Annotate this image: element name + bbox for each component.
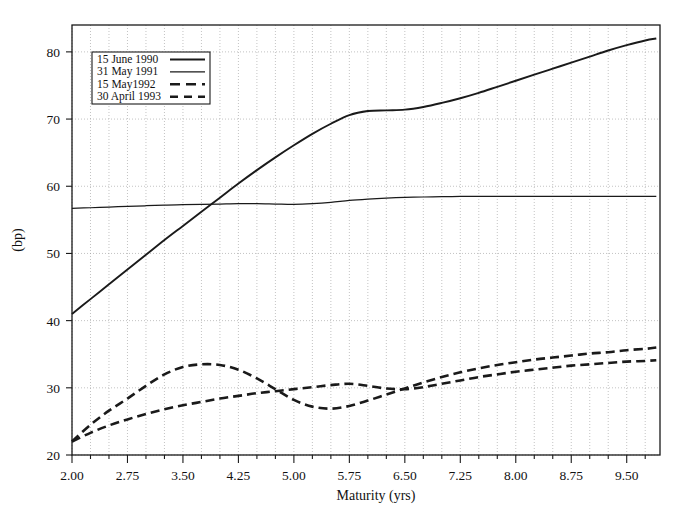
legend-item-label: 15 June 1990 — [97, 53, 159, 65]
y-axis-title: (bp) — [10, 228, 26, 252]
legend-item-label: 31 May 1991 — [97, 65, 159, 78]
x-tick-label: 2.75 — [116, 468, 140, 483]
y-tick-label: 70 — [47, 112, 61, 127]
x-tick-label: 3.50 — [171, 468, 195, 483]
x-tick-label: 5.75 — [338, 468, 362, 483]
series-line-3 — [72, 348, 656, 442]
y-tick-label: 80 — [47, 45, 61, 60]
chart-figure: 2.002.753.504.255.005.756.507.258.008.75… — [0, 0, 680, 531]
y-tick-label: 20 — [47, 448, 61, 463]
legend-item-label: 30 April 1993 — [97, 90, 161, 103]
chart-canvas: 2.002.753.504.255.005.756.507.258.008.75… — [0, 0, 680, 531]
axis-titles: Maturity (yrs) (bp) — [10, 228, 416, 504]
x-tick-label: 8.75 — [559, 468, 583, 483]
legend-box: 15 June 199031 May 199115 May199230 Apri… — [92, 52, 210, 104]
x-tick-label: 4.25 — [227, 468, 251, 483]
x-tick-label: 6.50 — [393, 468, 417, 483]
x-tick-label: 2.00 — [60, 468, 84, 483]
y-tick-label: 50 — [47, 246, 61, 261]
x-tick-label: 5.00 — [282, 468, 306, 483]
legend-item-label: 15 May1992 — [97, 78, 156, 91]
y-tick-label: 40 — [47, 314, 61, 329]
x-tick-label: 9.50 — [615, 468, 639, 483]
x-tick-label: 7.25 — [448, 468, 472, 483]
series-line-2 — [72, 196, 656, 208]
x-axis-title: Maturity (yrs) — [337, 488, 416, 504]
y-tick-label: 60 — [47, 179, 61, 194]
x-tick-label: 8.00 — [504, 468, 528, 483]
y-tick-label: 30 — [47, 381, 61, 396]
